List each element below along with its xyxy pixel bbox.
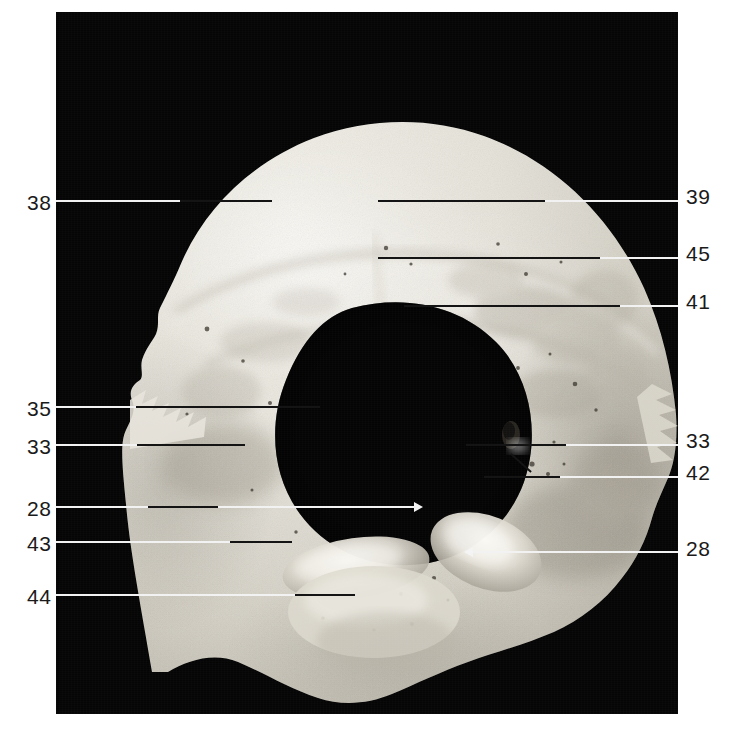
leader-line-35-dark [136,406,320,408]
arrow-28-left [414,502,423,512]
label-45[interactable]: 45 [686,243,710,264]
leader-line-28-right-white [473,551,678,553]
leader-line-44-dark [295,594,355,596]
label-33-left[interactable]: 33 [27,436,51,457]
photograph-plate [56,12,678,714]
label-35[interactable]: 35 [27,398,51,419]
leader-line-44-white [56,594,295,596]
figure-page: 38 35 33 28 43 44 39 45 41 33 42 28 [0,0,730,736]
leader-line-28-left-white2 [218,506,416,508]
leader-line-41-white [620,305,678,307]
leader-line-38-white [56,200,180,202]
leader-line-33-left-dark [137,444,245,446]
arrow-28-right [464,547,473,557]
occipital-bone-illustration [56,12,678,714]
leader-line-33-left-white [56,444,137,446]
leader-line-28-left-dark [148,506,218,508]
leader-line-42-white [560,476,678,478]
leader-line-33-right-white [566,444,678,446]
leader-line-42-dark [484,476,560,478]
leader-line-35-white [56,406,136,408]
label-41[interactable]: 41 [686,291,710,312]
leader-line-45-white [600,257,678,259]
label-39[interactable]: 39 [686,186,710,207]
label-42[interactable]: 42 [686,462,710,483]
label-43[interactable]: 43 [27,533,51,554]
label-33-right[interactable]: 33 [686,430,710,451]
leader-line-43-white [56,541,230,543]
label-38[interactable]: 38 [27,192,51,213]
leader-line-33-right-dark [466,444,566,446]
leader-line-41-dark [404,305,620,307]
leader-line-38-dark [180,200,272,202]
label-28-right[interactable]: 28 [686,538,710,559]
leader-line-45-dark [378,257,600,259]
label-44[interactable]: 44 [27,586,51,607]
leader-line-28-left-white [56,506,148,508]
leader-line-39-white [545,200,678,202]
leader-line-39-dark [378,200,545,202]
leader-line-43-dark [230,541,292,543]
label-28-left[interactable]: 28 [27,498,51,519]
